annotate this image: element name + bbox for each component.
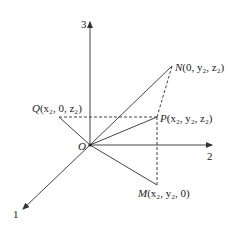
axis-1 bbox=[23, 145, 90, 209]
point-N-label: N(0, y₂, z₂) bbox=[174, 61, 225, 74]
coordinate-diagram: 3 2 1 O N(0, y₂, z₂) P(x₂, y₂, z₂) Q(x₂,… bbox=[0, 0, 241, 230]
segment-OM bbox=[90, 145, 157, 185]
axis-3-label: 3 bbox=[81, 18, 87, 30]
point-P-label: P(x₂, y₂, z₂) bbox=[159, 112, 213, 125]
segment-ON bbox=[90, 66, 172, 145]
segment-OP bbox=[90, 117, 157, 145]
origin-dot bbox=[88, 143, 91, 146]
point-Q-label: Q(x₂, 0, z₂) bbox=[32, 102, 82, 115]
origin-label: O bbox=[78, 140, 86, 152]
axis-1-label: 1 bbox=[13, 208, 19, 220]
axis-2-label: 2 bbox=[207, 150, 213, 162]
point-M-label: M(x₂, y₂, 0) bbox=[137, 187, 190, 200]
